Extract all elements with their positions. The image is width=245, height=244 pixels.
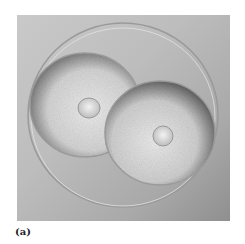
embryo-illustration [17, 15, 230, 221]
nucleus-right [153, 126, 173, 146]
nucleus-left [78, 98, 100, 118]
panel-label: (a) [15, 226, 31, 237]
embryo-micrograph [17, 15, 230, 221]
